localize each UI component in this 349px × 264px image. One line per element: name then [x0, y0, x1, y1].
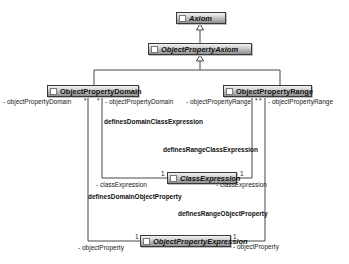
role-label: - objectProperty	[78, 244, 124, 251]
class-name: ObjectPropertyAxiom	[161, 45, 238, 54]
class-name: ObjectPropertyDomain	[60, 87, 142, 96]
multiplicity-label: *	[259, 97, 262, 104]
association-name: definesDomainObjectProperty	[88, 193, 182, 200]
role-label: - classExpression	[216, 181, 267, 188]
class-object-property-domain[interactable]: ObjectPropertyDomain	[47, 85, 139, 97]
class-icon	[226, 88, 233, 95]
association-name: definesRangeClassExpression	[163, 146, 258, 153]
class-axiom[interactable]: Axiom	[176, 12, 226, 24]
role-label: - objectPropertyRange	[186, 98, 251, 105]
role-label: - objectPropertyDomain	[105, 98, 173, 105]
class-icon	[170, 175, 177, 182]
class-name: Axiom	[189, 14, 212, 23]
inheritance-arrow-icon	[197, 24, 204, 30]
class-object-property-range[interactable]: ObjectPropertyRange	[223, 85, 312, 97]
class-icon	[143, 238, 150, 245]
multiplicity-label: 1	[161, 170, 165, 177]
class-icon	[151, 46, 158, 53]
role-label: - objectProperty	[233, 243, 279, 250]
class-icon	[179, 15, 186, 22]
association-line	[237, 97, 252, 178]
multiplicity-label: 1	[233, 233, 237, 240]
class-object-property-axiom[interactable]: ObjectPropertyAxiom	[148, 43, 252, 55]
multiplicity-label: 1	[240, 170, 244, 177]
inheritance-arrow-icon	[197, 55, 204, 61]
multiplicity-label: *	[84, 97, 87, 104]
multiplicity-label: 1	[135, 233, 139, 240]
multiplicity-label: *	[255, 97, 258, 104]
role-label: - objectPropertyDomain	[3, 98, 71, 105]
class-object-property-expression[interactable]: ObjectPropertyExpression	[140, 235, 231, 247]
multiplicity-label: *	[97, 97, 100, 104]
association-name: definesDomainClassExpression	[104, 118, 203, 125]
class-icon	[50, 88, 57, 95]
role-label: - classExpression	[96, 181, 147, 188]
generalization-line	[94, 70, 280, 85]
uml-diagram: Axiom ObjectPropertyAxiom ObjectProperty…	[0, 0, 349, 264]
association-line	[231, 97, 265, 241]
role-label: - objectPropertyRange	[268, 98, 333, 105]
association-name: definesRangeObjectProperty	[178, 210, 268, 217]
connector-lines	[0, 0, 349, 264]
class-name: ObjectPropertyRange	[236, 87, 313, 96]
association-line	[102, 97, 167, 178]
